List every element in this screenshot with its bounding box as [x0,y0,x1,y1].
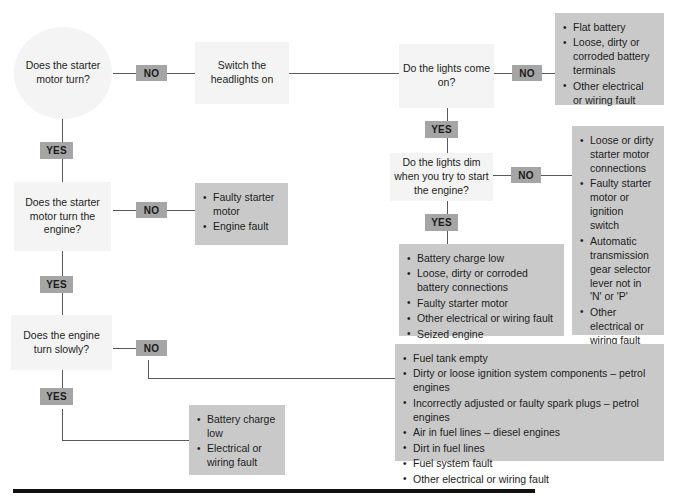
answer-item: Other electrical or wiring fault [407,312,555,326]
edge-label-no-lights-come-on: NO [512,65,542,81]
answer-item: Loose or dirty starter motor connections [580,134,655,176]
answer-item: Loose, dirty or corroded battery connect… [407,267,555,295]
connector-no-right-to-fuellist [148,378,395,379]
edge-label-no-engine-slowly: NO [136,340,167,356]
node-label: Does the engine turn slowly? [11,329,112,357]
flowchart-canvas: Does the starter motor turn? NO Switch t… [0,0,681,497]
connector-yes-down-slowly [62,409,63,440]
connector-starterengine-down-yes [62,251,63,276]
answer-items: Loose or dirty starter motor connections… [580,134,655,348]
connector-no-to-lightslist [542,73,555,74]
answer-item: Fuel system fault [403,457,655,471]
answer-item: Fuel tank empty [403,352,655,366]
connector-lights-to-no [494,73,512,74]
answer-item: Dirt in fuel lines [403,442,655,456]
edge-label-text: NO [144,68,159,79]
edge-label-text: YES [46,391,67,402]
node-label: Switch the headlights on [195,59,289,87]
connector-yes-down-to-dimyeslist [447,231,448,244]
node-starter-motor-turn: Does the starter motor turn? [14,27,112,119]
answer-list-starter-engine-no: Faulty starter motor Engine fault [195,183,288,245]
connector-slowly-to-no [113,348,136,349]
edge-label-text: NO [519,68,534,79]
node-label: Does the starter motor turn the engine? [14,196,111,238]
answer-item: Seized engine [407,328,555,342]
connector-yes-down-to-starterengine [62,159,63,182]
node-label: Do the lights dim when you try to start … [390,156,493,198]
answer-item: Faulty starter motor or ignition switch [580,177,655,233]
edge-label-no-lights-dim: NO [511,167,541,183]
answer-items: Battery charge low Loose, dirty or corro… [407,252,555,342]
connector-starter-to-no [113,73,136,74]
node-lights-come-on: Do the lights come on? [399,44,494,108]
answer-items: Faulty starter motor Engine fault [203,191,279,234]
answer-item: Battery charge low [407,252,555,266]
answer-item: Flat battery [563,21,655,35]
edge-label-text: NO [144,205,159,216]
node-switch-headlights: Switch the headlights on [195,42,289,104]
edge-label-yes-lights-come-on: YES [425,121,458,138]
answer-item: Air in fuel lines – diesel engines [403,426,655,440]
answer-item: Loose, dirty or corroded battery termina… [563,36,655,78]
connector-starterengine-to-no [113,210,136,211]
edge-label-yes-starter-engine: YES [40,276,73,293]
answer-item: Battery charge low [197,413,276,441]
node-label: Do the lights come on? [399,62,494,90]
node-lights-dim: Do the lights dim when you try to start … [390,153,493,201]
connector-no-down-slowly [148,360,149,378]
answer-item: Faulty starter motor [203,191,279,219]
node-label: Does the starter motor turn? [14,59,112,87]
connector-starter-down-yes [62,118,63,142]
answer-item: Engine fault [203,220,279,234]
node-engine-turn-slowly: Does the engine turn slowly? [11,315,112,370]
edge-label-yes-lights-dim: YES [425,214,458,231]
connector-dim-down-yes [447,201,448,214]
answer-items: Fuel tank empty Dirty or loose ignition … [403,352,655,487]
answer-list-slowly-yes: Battery charge low Electrical or wiring … [189,405,285,475]
edge-label-text: YES [431,124,452,135]
edge-label-text: YES [46,145,67,156]
answer-item: Other electrical or wiring fault [563,80,655,108]
node-starter-turn-engine: Does the starter motor turn the engine? [14,182,111,251]
edge-label-yes-engine-slowly: YES [40,388,73,405]
connector-no-to-dimlist [541,175,572,176]
edge-label-no-starter-turn: NO [136,65,167,81]
answer-item: Other electrical or wiring fault [403,473,655,487]
connector-headlights-to-lights [289,73,399,74]
answer-list-dim-no: Loose or dirty starter motor connections… [572,126,664,335]
answer-items: Battery charge low Electrical or wiring … [197,413,276,470]
answer-list-lights-no: Flat battery Loose, dirty or corroded ba… [555,13,664,105]
answer-item: Other electrical or wiring fault [580,306,655,348]
connector-no-to-headlights [167,73,195,74]
connector-lights-down-yes [447,108,448,121]
answer-list-dim-yes: Battery charge low Loose, dirty or corro… [399,244,564,336]
edge-label-text: YES [431,217,452,228]
connector-slowly-down-yes [62,370,63,388]
answer-item: Automatic transmission gear selector lev… [580,235,655,305]
answer-item: Incorrectly adjusted or faulty spark plu… [403,397,655,425]
bottom-divider-rule [13,489,535,493]
edge-label-text: NO [518,170,533,181]
edge-label-no-starter-engine: NO [136,202,167,218]
connector-no-to-starterenginelist [167,210,195,211]
edge-label-text: YES [46,279,67,290]
edge-label-text: NO [144,343,159,354]
connector-dim-to-no [493,175,511,176]
answer-item: Faulty starter motor [407,297,555,311]
answer-items: Flat battery Loose, dirty or corroded ba… [563,21,655,108]
connector-yes-down-to-dim [447,138,448,153]
connector-yes-right-to-batterylist [62,440,189,441]
answer-list-slowly-no: Fuel tank empty Dirty or loose ignition … [395,344,664,461]
edge-label-yes-starter-turn: YES [40,142,73,159]
answer-item: Dirty or loose ignition system component… [403,367,655,395]
connector-yes-down-to-slowly [62,292,63,315]
answer-item: Electrical or wiring fault [197,442,276,470]
